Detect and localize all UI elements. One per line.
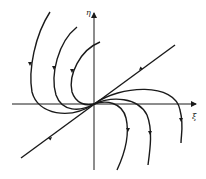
eta-axis-label: η xyxy=(86,8,91,17)
right-trajectory-3 xyxy=(94,102,127,170)
arrow-icon xyxy=(148,131,152,135)
phase-portrait-diagram xyxy=(0,0,206,179)
left-trajectory-1 xyxy=(31,12,94,113)
left-trajectory-3 xyxy=(71,42,100,105)
arrow-icon xyxy=(126,128,130,132)
right-trajectory-1 xyxy=(94,89,182,143)
xi-axis-label: ξ xyxy=(192,112,196,121)
